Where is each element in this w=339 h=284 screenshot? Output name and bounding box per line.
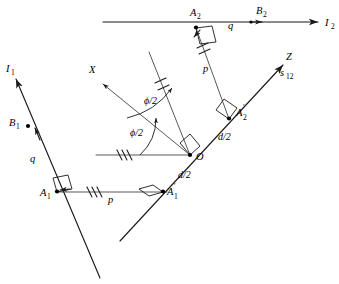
point-dot-O	[188, 153, 192, 157]
label-origin-O: O	[196, 151, 204, 162]
svg-text:1: 1	[174, 192, 178, 201]
label-axis-X: X	[88, 64, 96, 75]
segment-A2-A2prime	[196, 28, 229, 119]
svg-text:A: A	[189, 7, 197, 18]
svg-text:2: 2	[243, 113, 247, 122]
svg-text:s: s	[280, 67, 284, 78]
point-dot-A1	[55, 189, 59, 193]
svg-text:1: 1	[11, 68, 15, 77]
right-angle-marker-A1prime	[139, 185, 163, 196]
svg-text:′: ′	[174, 182, 176, 191]
label-axis-Z: Z	[286, 51, 292, 62]
technical-diagram: I 2 I 1 Z s 12 X O A 2 A ′ 2	[0, 0, 339, 284]
point-dot-A1prime	[161, 189, 165, 193]
tick-marks-triple-horizontal	[117, 150, 132, 160]
label-point-A1: A 1	[39, 187, 51, 201]
point-dot-A2prime	[227, 116, 231, 120]
tick-marks-triple-bottom	[87, 187, 102, 197]
line-I1	[16, 79, 100, 278]
svg-text:I: I	[5, 63, 10, 74]
svg-text:B: B	[256, 5, 263, 16]
svg-text:1: 1	[47, 192, 51, 201]
label-point-A2: A 2	[189, 7, 201, 21]
label-segment-q-left: q	[30, 153, 35, 164]
label-line-I1: I 1	[5, 63, 15, 77]
label-line-I2: I 2	[324, 17, 335, 31]
label-phi-half-outer: ϕ/2	[144, 95, 157, 106]
label-segment-q-top: q	[228, 20, 233, 31]
svg-text:A: A	[166, 186, 174, 197]
svg-text:12: 12	[286, 72, 294, 81]
label-segment-p-right: p	[202, 63, 208, 74]
svg-text:A: A	[39, 187, 47, 198]
svg-text:I: I	[324, 17, 329, 28]
label-phi-half-inner: ϕ/2	[130, 127, 143, 138]
svg-text:′: ′	[243, 103, 245, 112]
svg-text:B: B	[9, 117, 16, 128]
label-point-B2: B 2	[256, 5, 267, 19]
label-point-B1: B 1	[9, 117, 20, 131]
direction-marker-B2	[249, 20, 262, 23]
label-d-half-upper: d/2	[218, 131, 231, 142]
svg-text:A: A	[235, 107, 243, 118]
right-angle-marker-A2prime	[216, 99, 237, 119]
label-screw-axis-s12: s 12	[280, 67, 294, 81]
point-dot-B1	[26, 124, 30, 128]
svg-text:2: 2	[197, 12, 201, 21]
right-angle-marker-A2	[196, 26, 216, 44]
svg-text:1: 1	[16, 122, 20, 131]
svg-text:2: 2	[263, 10, 267, 19]
label-d-half-lower: d/2	[178, 169, 191, 180]
label-segment-p-bottom: p	[107, 194, 113, 205]
figure-root: I 2 I 1 Z s 12 X O A 2 A ′ 2	[0, 0, 339, 284]
svg-text:2: 2	[331, 22, 335, 31]
point-dot-A2	[194, 25, 198, 29]
